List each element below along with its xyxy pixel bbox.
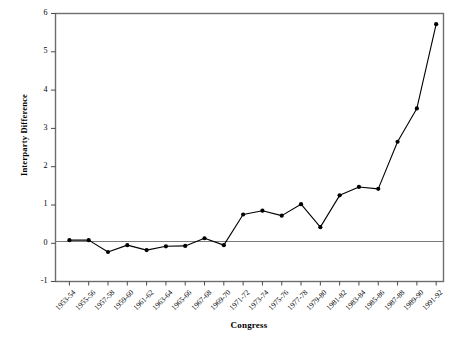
data-point	[222, 243, 226, 247]
y-tick-label: 2	[30, 161, 48, 170]
data-point	[434, 22, 438, 26]
y-tick-label: 3	[30, 123, 48, 132]
data-point	[395, 140, 399, 144]
data-point	[67, 238, 71, 242]
data-point	[280, 214, 284, 218]
data-point	[260, 209, 264, 213]
data-point	[415, 106, 419, 110]
y-tick-label: 6	[30, 8, 48, 17]
data-point	[183, 244, 187, 248]
data-series-line	[69, 24, 436, 252]
data-point	[145, 248, 149, 252]
y-tick-label: 1	[30, 199, 48, 208]
y-axis-title: Interparty Difference	[19, 65, 29, 205]
y-tick-label: -1	[30, 276, 48, 285]
data-point	[106, 250, 110, 254]
data-point	[164, 244, 168, 248]
y-tick-label: 5	[30, 46, 48, 55]
data-point	[376, 187, 380, 191]
data-point	[357, 185, 361, 189]
data-point	[241, 212, 245, 216]
data-point	[202, 236, 206, 240]
data-point	[299, 202, 303, 206]
chart-figure: Interparty Difference Congress -10123456…	[0, 0, 464, 341]
data-point-markers	[67, 22, 438, 254]
data-point	[318, 225, 322, 229]
data-point	[87, 238, 91, 242]
y-tick-label: 4	[30, 85, 48, 94]
data-point	[125, 243, 129, 247]
data-point	[338, 193, 342, 197]
x-axis-title: Congress	[55, 320, 443, 330]
y-tick-label: 0	[30, 238, 48, 247]
